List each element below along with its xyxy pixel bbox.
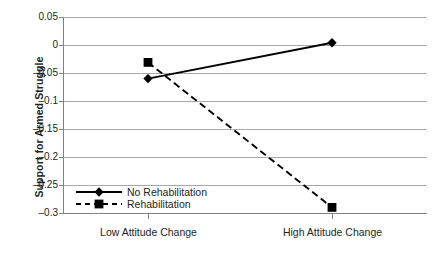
gridlines (63, 18, 427, 186)
data-point-marker-diamond (143, 74, 152, 83)
legend-item-rehabilitation: Rehabilitation (127, 198, 191, 210)
x-axis-ticks (149, 214, 333, 219)
chart-container: Support for Armed Struggle 0.05 0 –0.05 … (0, 0, 437, 254)
series-no-rehabilitation (143, 38, 336, 83)
legend-marker-diamond (94, 187, 103, 196)
x-tick-label-high-attitude-change: High Attitude Change (272, 226, 393, 238)
legend-marks (76, 187, 122, 208)
data-point-marker-square (328, 203, 337, 212)
x-tick-label-low-attitude-change: Low Attitude Change (88, 226, 209, 238)
legend-item-no-rehabilitation: No Rehabilitation (127, 186, 207, 198)
y-axis-ticks (59, 18, 63, 214)
legend-marker-square (95, 200, 104, 209)
plot-area (0, 0, 437, 254)
data-point-marker-square (144, 58, 153, 67)
